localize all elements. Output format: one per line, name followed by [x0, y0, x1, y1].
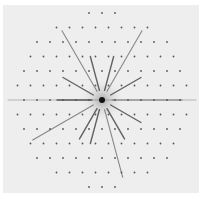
central-beam [99, 97, 105, 103]
diffraction-pattern [0, 0, 204, 198]
